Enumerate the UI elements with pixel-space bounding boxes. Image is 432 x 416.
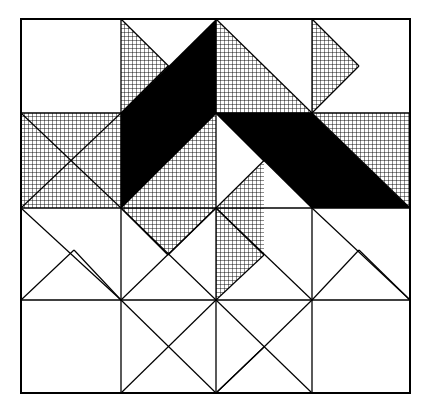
quilt-block-figure (0, 0, 432, 416)
quilt-block-svg (0, 0, 432, 416)
